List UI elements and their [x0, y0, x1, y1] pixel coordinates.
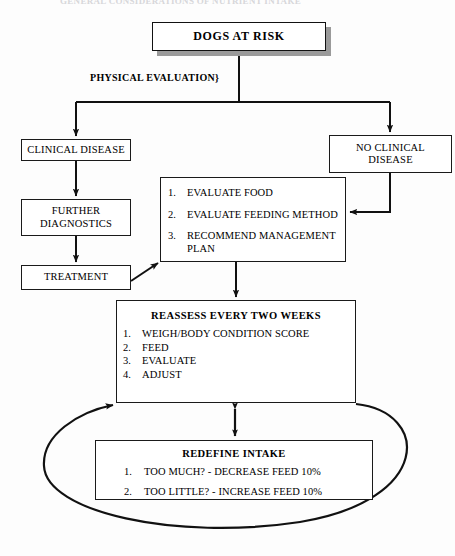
list-item-text: TOO LITTLE? - INCREASE FEED 10% [144, 486, 366, 499]
edge-label-physical-evaluation: PHYSICAL EVALUATION} [90, 72, 219, 83]
list-item-text: TOO MUCH? - DECREASE FEED 10% [144, 466, 366, 479]
flowchart-page: GENERAL CONSIDERATIONS OF NUTRIENT INTAK… [0, 0, 455, 556]
list-item: 4. ADJUST [123, 369, 349, 382]
list-item: 3. EVALUATE [123, 355, 349, 368]
list-item: 2. EVALUATE FEEDING METHOD [168, 209, 339, 222]
list-item-text: WEIGH/BODY CONDITION SCORE [142, 328, 349, 341]
list-item: 1. WEIGH/BODY CONDITION SCORE [123, 328, 349, 341]
list-item-text: FEED [142, 342, 349, 355]
list-item-text: EVALUATE FEEDING METHOD [187, 209, 339, 222]
reassess-list: 1. WEIGH/BODY CONDITION SCORE 2. FEED 3.… [123, 328, 349, 382]
node-evaluate-plan[interactable]: 1. EVALUATE FOOD 2. EVALUATE FEEDING MET… [160, 177, 346, 262]
node-no-clinical-disease-line2: DISEASE [368, 154, 413, 167]
list-item-number: 1. [124, 466, 144, 479]
node-dogs-at-risk[interactable]: DOGS AT RISK [152, 22, 326, 51]
list-item-number: 3. [123, 355, 142, 368]
edge-treatment-to-evaluate [131, 263, 158, 281]
list-item-text: EVALUATE FOOD [187, 187, 339, 200]
list-item: 1. EVALUATE FOOD [168, 187, 339, 200]
node-further-diagnostics-line1: FURTHER [52, 205, 101, 218]
list-item-number: 2. [124, 486, 144, 499]
list-item-number: 2. [123, 342, 142, 355]
node-dogs-at-risk-label: DOGS AT RISK [193, 30, 284, 43]
node-no-clinical-disease-line1: NO CLINICAL [356, 142, 425, 155]
redefine-intake-list: 1. TOO MUCH? - DECREASE FEED 10% 2. TOO … [102, 466, 366, 498]
node-clinical-disease[interactable]: CLINICAL DISEASE [21, 139, 131, 161]
list-item-number: 2. [168, 209, 187, 222]
list-item: 2. FEED [123, 342, 349, 355]
list-item-number: 4. [123, 369, 142, 382]
node-redefine-intake[interactable]: REDEFINE INTAKE 1. TOO MUCH? - DECREASE … [95, 440, 373, 500]
list-item: 3. RECOMMEND MANAGEMENT PLAN [168, 230, 339, 255]
evaluate-plan-list: 1. EVALUATE FOOD 2. EVALUATE FEEDING MET… [168, 187, 339, 255]
list-item: 2. TOO LITTLE? - INCREASE FEED 10% [124, 486, 366, 499]
list-item-text: EVALUATE [142, 355, 349, 368]
node-further-diagnostics[interactable]: FURTHER DIAGNOSTICS [21, 199, 131, 236]
node-further-diagnostics-line2: DIAGNOSTICS [40, 218, 112, 231]
node-treatment[interactable]: TREATMENT [21, 265, 131, 290]
node-no-clinical-disease[interactable]: NO CLINICAL DISEASE [329, 135, 452, 173]
list-item-number: 1. [123, 328, 142, 341]
node-reassess-title: REASSESS EVERY TWO WEEKS [123, 310, 349, 321]
node-treatment-label: TREATMENT [44, 271, 108, 284]
node-clinical-disease-label: CLINICAL DISEASE [27, 144, 125, 157]
list-item-text: RECOMMEND MANAGEMENT PLAN [187, 230, 339, 255]
list-item-text: ADJUST [142, 369, 349, 382]
list-item-number: 3. [168, 230, 187, 255]
node-redefine-intake-title: REDEFINE INTAKE [102, 448, 366, 459]
edge-noclinical-to-evaluate [350, 173, 390, 212]
list-item: 1. TOO MUCH? - DECREASE FEED 10% [124, 466, 366, 479]
list-item-number: 1. [168, 187, 187, 200]
node-reassess[interactable]: REASSESS EVERY TWO WEEKS 1. WEIGH/BODY C… [116, 300, 356, 403]
